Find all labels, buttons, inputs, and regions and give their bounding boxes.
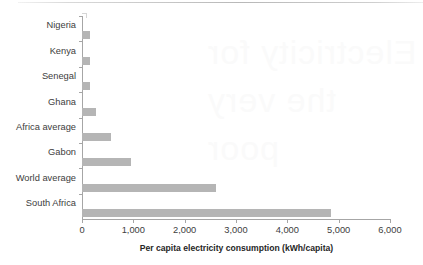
bar-row: Nigeria — [82, 16, 390, 41]
category-label: Senegal — [42, 71, 76, 81]
category-tick — [79, 67, 82, 68]
bar — [82, 133, 111, 141]
x-axis-tick — [339, 219, 340, 223]
x-axis-tick-label: 5,000 — [327, 225, 350, 235]
x-axis-tick — [133, 219, 134, 223]
bar — [82, 108, 96, 116]
category-label: Africa average — [16, 122, 76, 132]
category-label: Kenya — [50, 46, 76, 56]
category-tick — [79, 168, 82, 169]
x-axis-tick — [287, 219, 288, 223]
category-label: Ghana — [48, 97, 76, 107]
x-axis-tick — [390, 219, 391, 223]
bar — [82, 57, 90, 65]
x-axis-tick — [236, 219, 237, 223]
bar — [82, 82, 90, 90]
bar — [82, 31, 90, 39]
category-tick — [79, 194, 82, 195]
category-label: South Africa — [26, 198, 76, 208]
category-label: World average — [16, 173, 76, 183]
category-tick — [79, 92, 82, 93]
category-label: Gabon — [48, 147, 76, 157]
bar-row: Kenya — [82, 41, 390, 66]
x-axis-tick — [82, 219, 83, 223]
bar-row: Gabon — [82, 143, 390, 168]
bar-row: Senegal — [82, 67, 390, 92]
x-axis-tick — [185, 219, 186, 223]
bar — [82, 209, 331, 217]
x-axis-tick-label: 6,000 — [378, 225, 401, 235]
x-axis-tick-label: 4,000 — [276, 225, 299, 235]
category-tick — [79, 16, 82, 17]
category-tick — [79, 118, 82, 119]
bar-row: Africa average — [82, 118, 390, 143]
x-axis-tick-label: 0 — [79, 225, 84, 235]
category-tick — [79, 41, 82, 42]
x-axis-tick-label: 1,000 — [122, 225, 145, 235]
bar — [82, 158, 131, 166]
bar-row: World average — [82, 168, 390, 193]
bar-row: South Africa — [82, 194, 390, 219]
x-axis-title: Per capita electricity consumption (kWh/… — [82, 243, 391, 253]
category-tick — [79, 143, 82, 144]
x-axis-tick-label: 2,000 — [173, 225, 196, 235]
plot-area: NigeriaKenyaSenegalGhanaAfrica averageGa… — [82, 16, 390, 219]
bar-row: Ghana — [82, 92, 390, 117]
bar — [82, 184, 216, 192]
bar-chart: NigeriaKenyaSenegalGhanaAfrica averageGa… — [0, 0, 423, 265]
x-axis-tick-label: 3,000 — [224, 225, 247, 235]
category-label: Nigeria — [47, 20, 76, 30]
